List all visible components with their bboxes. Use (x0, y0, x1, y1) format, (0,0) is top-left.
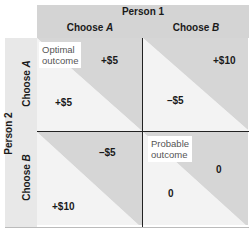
note-line: outcome (42, 55, 78, 66)
column-label-prefix: Choose (67, 22, 106, 33)
column-player-label: Person 1 (37, 6, 249, 17)
column-label-choose-a: Choose A (37, 22, 143, 33)
row-label-choice: A (21, 60, 32, 67)
note-line: Probable (151, 138, 189, 149)
cell-a-a: Optimaloutcome +$5 +$5 (37, 38, 142, 131)
payoff-matrix: Optimaloutcome +$5 +$5 +$10 –$5 –$5 +$10… (37, 38, 249, 228)
bottom-border (5, 227, 249, 228)
payoff-person1: +$5 (101, 55, 118, 66)
row-divider (37, 131, 249, 132)
row-label-choose-a: Choose A (21, 54, 32, 114)
row-label-choice: B (21, 154, 32, 161)
column-label-choice: B (212, 22, 219, 33)
row-label-choose-b: Choose B (21, 148, 32, 208)
column-label-prefix: Choose (173, 22, 212, 33)
row-label-prefix: Choose (21, 67, 32, 106)
column-divider (142, 38, 143, 228)
payoff-person2: +$10 (52, 201, 75, 212)
row-label-prefix: Choose (21, 161, 32, 200)
row-player-label: Person 2 (3, 104, 14, 164)
cell-b-b: Probableoutcome 0 0 (143, 132, 248, 225)
probable-outcome-note: Probableoutcome (148, 136, 192, 162)
payoff-person2: –$5 (167, 95, 184, 106)
payoff-person1: +$10 (213, 55, 236, 66)
diagonal-split (143, 38, 248, 131)
payoff-person2: +$5 (55, 97, 72, 108)
column-label-choice: A (106, 22, 113, 33)
note-line: outcome (151, 149, 189, 160)
payoff-person2: 0 (168, 188, 174, 199)
note-line: Optimal (42, 44, 78, 55)
payoff-person1: –$5 (99, 147, 116, 158)
optimal-outcome-note: Optimaloutcome (39, 42, 81, 68)
payoff-person1: 0 (216, 164, 222, 175)
column-label-choose-b: Choose B (143, 22, 249, 33)
cell-b-a: –$5 +$10 (37, 132, 142, 225)
cell-a-b: +$10 –$5 (143, 38, 248, 131)
